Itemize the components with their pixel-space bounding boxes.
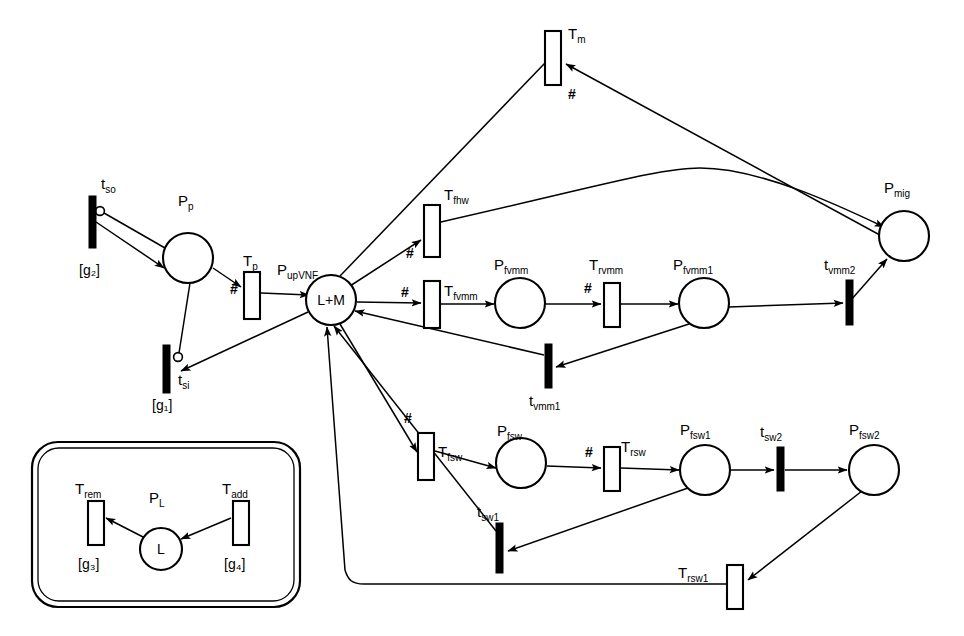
label-transition-Tp: Tp [243,252,258,272]
place-PupVNF-inner-label: L+M [317,292,345,308]
transition-Tadd[interactable] [233,501,249,545]
transition-tvmm1[interactable] [545,344,552,388]
place-Pfsw1[interactable] [680,445,730,495]
transition-Tp[interactable] [244,272,260,319]
transition-Tm[interactable] [545,31,561,85]
label-place-Pfsw: Pfsw [497,422,523,442]
label-place-Pfvmm1: Pfvmm1 [673,256,713,276]
label-transition-Tfsw: Tfsw [438,443,463,463]
hash-label-Tm: # [568,86,576,102]
transition-Tfhw[interactable] [424,205,440,257]
transition-Trvmm[interactable] [604,283,620,327]
transition-tso[interactable] [89,196,96,248]
transition-tsi[interactable] [163,345,170,393]
hash-label-Trsw: # [585,444,593,460]
label-transition-Trsw1: Trsw1 [678,564,709,584]
place-layer [140,211,929,570]
arc-Pfvmm1-to-tvmm1 [556,324,689,367]
transition-layer [88,31,853,609]
label-transition-Trem: Trem [75,480,101,500]
label-place-Pmig: Pmig [884,179,910,199]
label-place-Pfsw1: Pfsw1 [680,421,711,441]
transition-tsw1[interactable] [496,523,503,573]
transition-Trem[interactable] [88,501,104,545]
label-place-PL: PL [149,489,165,509]
transition-tsw2[interactable] [777,447,784,491]
place-Pfvmm1[interactable] [679,278,729,328]
arc-Tfhw-to-Pmig [441,168,884,227]
arc-Pfvmm1-to-tvmm2 [729,303,843,307]
transition-Trsw1[interactable] [727,565,743,609]
place-Pfvmm[interactable] [495,278,545,328]
hash-label-Trvmm: # [584,280,592,296]
place-inner-text-layer: L+M L [157,292,345,557]
arc-tsw1-to-PupVNF [334,326,496,531]
guard-Trem: [g₃] [78,556,99,572]
arc-layer [96,63,900,584]
label-place-Pp: Pp [178,192,194,212]
arc-Pp-to-tsi-inhibitor [179,283,190,353]
guard-Tadd: [g₄] [224,556,245,572]
transition-tvmm2[interactable] [846,280,853,325]
hash-label-Tfsw: # [404,410,412,426]
arc-Tm-to-Pmig [566,64,900,246]
arc-Tp-to-PupVNF [261,293,309,295]
transition-Tfvmm[interactable] [424,281,440,328]
transition-Tfsw[interactable] [418,433,434,480]
arc-Pfsw1-to-tsw1 [508,488,688,551]
guard-tsi: [g₁] [152,397,172,413]
place-Pfsw[interactable] [496,438,546,488]
arc-PupVNF-to-Tfsw [340,324,417,452]
arc-PupVNF-to-Tfvmm [357,302,421,303]
hash-label-Tfvmm: # [401,284,409,300]
place-Pp[interactable] [163,233,213,283]
place-PL-inner-label: L [157,541,165,557]
label-transition-tsw1: tsw1 [477,503,499,523]
hash-label-Tp: # [230,281,238,297]
label-transition-tvmm1: tvmm1 [529,392,561,412]
label-transition-tvmm2: tvmm2 [824,256,856,276]
label-transition-Tfhw: Tfhw [444,186,470,206]
guard-tso: [g₂] [79,262,100,278]
label-transition-Trvmm: Trvmm [589,256,623,276]
label-transition-Tm: Tm [568,25,586,45]
place-Pfsw2[interactable] [849,445,899,495]
label-transition-tso: tso [101,175,116,195]
place-Pmig[interactable] [879,211,929,261]
label-place-Pfsw2: Pfsw2 [849,421,880,441]
petri-net-svg: L+M L Pp PupVNF Pfvmm Pfvmm1 Pmig Pfsw P… [0,0,964,636]
arc-Pfsw-to-Trsw [547,466,601,468]
inhibitor-dot-tsi [174,353,183,362]
label-place-PupVNF: PupVNF [277,261,318,281]
transition-Trsw[interactable] [604,447,620,491]
legend-subnet-box [32,442,300,607]
label-transition-Tadd: Tadd [222,480,248,500]
label-place-Pfvmm: Pfvmm [494,256,528,276]
arc-PupVNF-to-tsi [181,312,308,371]
arc-Tadd-to-PL [181,518,231,539]
label-transition-Trsw: Trsw [621,438,647,458]
arc-PL-to-Trem [106,518,145,538]
label-transition-tsw2: tsw2 [760,423,782,443]
inhibitor-dot-tso [96,207,105,216]
label-transition-Tfvmm: Tfvmm [444,282,478,302]
arc-tso-to-Pp [96,222,164,268]
arc-Pp-to-tso-inhibitor [104,213,165,248]
hash-label-Tfhw: # [406,245,414,261]
arc-Trsw-to-Pfsw1 [621,468,679,470]
arc-tvmm2-to-Pmig [851,259,887,300]
petri-net-canvas: L+M L Pp PupVNF Pfvmm Pfvmm1 Pmig Pfsw P… [0,0,964,636]
arc-Pfsw2-to-Trsw1 [748,491,862,580]
label-transition-tsi: tsi [178,371,189,391]
arc-PupVNF-to-Tm [340,63,545,276]
